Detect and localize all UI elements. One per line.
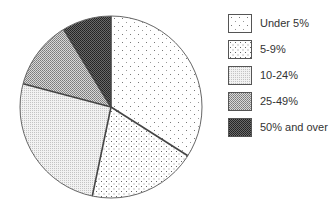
legend-swatch-sparse-dots [228, 14, 252, 33]
legend-swatch-dark [228, 118, 252, 137]
legend-item-50-and-over: 50% and over [228, 118, 336, 138]
legend-swatch-light-stipple [228, 66, 252, 85]
legend-label: 25-49% [260, 95, 298, 107]
legend-item-5-9: 5-9% [228, 40, 336, 60]
legend-label: Under 5% [260, 17, 309, 29]
legend-swatch-medium-dots [228, 40, 252, 59]
legend-item-25-49: 25-49% [228, 92, 336, 112]
pie-slices [20, 16, 202, 198]
legend-label: 50% and over [260, 121, 328, 133]
legend-swatch-medium-gray [228, 92, 252, 111]
legend-item-under-5: Under 5% [228, 14, 336, 34]
legend-label: 5-9% [260, 43, 286, 55]
legend-label: 10-24% [260, 69, 298, 81]
legend-item-10-24: 10-24% [228, 66, 336, 86]
